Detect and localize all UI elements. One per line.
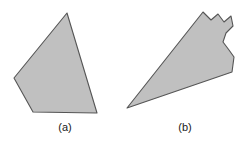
caption-a: (a) — [40, 121, 90, 134]
figure-root: (a) (b) — [0, 0, 239, 141]
caption-b: (b) — [160, 121, 210, 134]
shapes-canvas — [0, 0, 239, 141]
